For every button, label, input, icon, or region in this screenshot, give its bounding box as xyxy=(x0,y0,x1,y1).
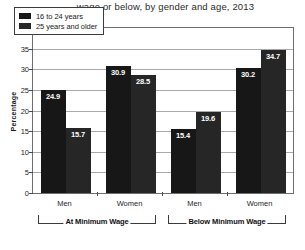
bar-value-label: 28.5 xyxy=(136,77,150,86)
x-axis-category-label: Men xyxy=(57,199,72,208)
bar-value-label: 34.7 xyxy=(266,52,280,61)
y-axis-tick-mark xyxy=(29,152,33,153)
bar-value-label: 15.4 xyxy=(176,131,190,140)
bar-chart: wage or below, by gender and age, 2013 P… xyxy=(0,0,305,250)
y-axis-tick-mark xyxy=(29,172,33,173)
legend-item-older: 25 years and older xyxy=(19,21,97,31)
x-axis-tick-mark xyxy=(227,192,228,196)
bar: 30.9 xyxy=(106,66,131,193)
bar: 30.2 xyxy=(236,68,261,193)
legend-label-older: 25 years and older xyxy=(36,22,97,31)
bar: 19.6 xyxy=(196,112,221,193)
bar: 34.7 xyxy=(261,50,286,193)
legend-label-young: 16 to 24 years xyxy=(36,12,83,21)
y-axis-tick-mark xyxy=(29,131,33,132)
y-axis-tick-mark xyxy=(29,69,33,70)
y-axis-tick-mark xyxy=(29,111,33,112)
legend-item-young: 16 to 24 years xyxy=(19,11,97,21)
bar: 15.4 xyxy=(171,129,196,193)
gridline xyxy=(33,49,293,50)
group-label: Below Minimum Wage xyxy=(186,217,267,226)
legend-swatch-icon xyxy=(19,13,31,19)
group-label: At Minimum Wage xyxy=(63,217,130,226)
x-axis-tick-mark xyxy=(97,192,98,196)
bar-value-label: 15.7 xyxy=(71,130,85,139)
bar-value-label: 24.9 xyxy=(46,92,60,101)
x-axis-category-label: Women xyxy=(117,199,143,208)
plot-area: 051015202530354024.915.730.928.515.419.6… xyxy=(32,27,294,194)
legend-swatch-icon xyxy=(19,23,31,29)
y-axis-tick-mark xyxy=(29,193,33,194)
bar: 15.7 xyxy=(66,128,91,193)
bar-value-label: 19.6 xyxy=(201,114,215,123)
y-axis-title: Percentage xyxy=(10,82,17,142)
bar-value-label: 30.2 xyxy=(241,70,255,79)
bar: 24.9 xyxy=(41,90,66,193)
chart-legend: 16 to 24 years 25 years and older xyxy=(14,7,104,35)
bar: 28.5 xyxy=(131,75,156,193)
y-axis-tick-mark xyxy=(29,49,33,50)
x-axis-tick-mark xyxy=(162,192,163,196)
bar-value-label: 30.9 xyxy=(111,68,125,77)
y-axis-tick-mark xyxy=(29,90,33,91)
x-axis-category-label: Men xyxy=(187,199,202,208)
x-axis-category-label: Women xyxy=(247,199,273,208)
